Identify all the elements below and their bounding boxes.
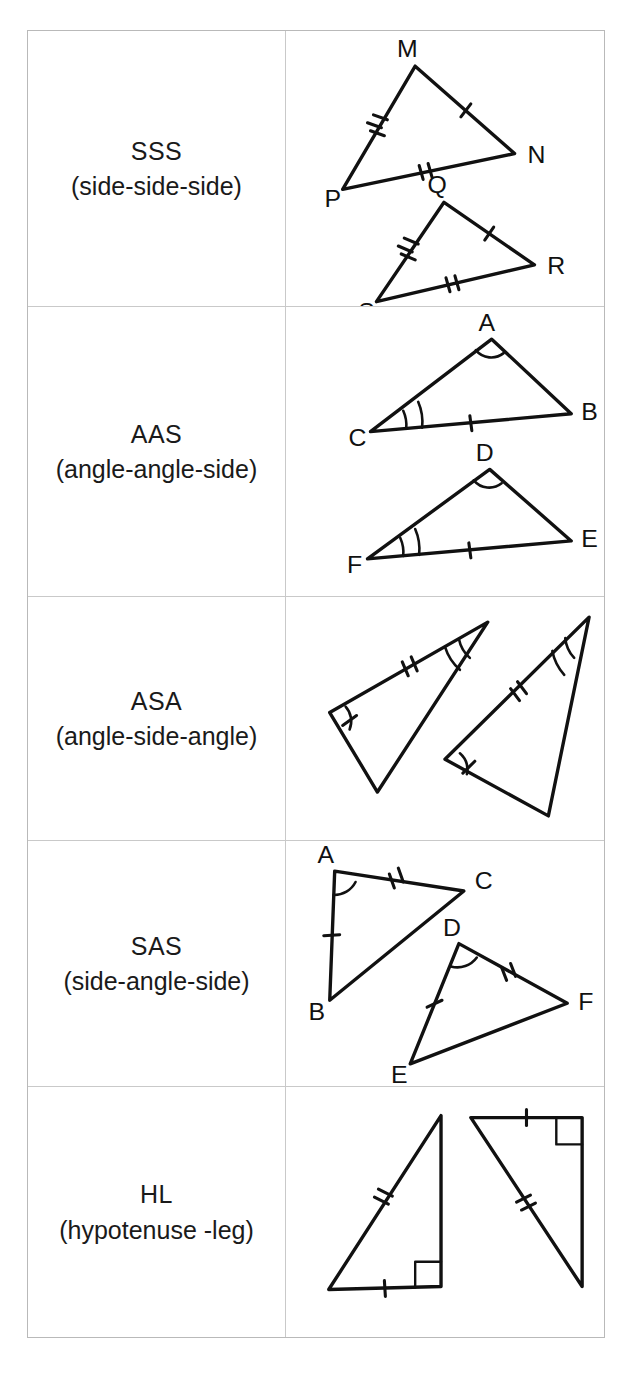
theorem-cell-sss: SSS (side-side-side) (28, 31, 286, 306)
side-mark-asa-right-2ticks (511, 682, 527, 701)
side-mark-qr-1tick (485, 227, 494, 240)
side-mark-pm-3ticks (367, 115, 387, 136)
theorem-full-sas: (side-angle-side) (63, 965, 249, 998)
table-row-hl: HL (hypotenuse -leg) (28, 1087, 604, 1337)
diagram-cell-aas: A B C D (286, 307, 604, 596)
table-row-sas: SAS (side-angle-side) (28, 841, 604, 1087)
vertex-label-n: N (527, 141, 545, 168)
diagram-cell-hl (286, 1087, 604, 1337)
theorem-abbr-hl: HL (140, 1178, 173, 1211)
vertex-label-sas-b: B (309, 998, 326, 1025)
vertex-label-sas-e: E (391, 1061, 408, 1086)
side-mark-sq-3ticks (398, 238, 418, 260)
theorem-abbr-asa: ASA (131, 685, 183, 718)
triangle-congruence-table: SSS (side-side-side) (27, 30, 605, 1338)
sss-diagram: M N P (286, 31, 604, 306)
triangle-sas-abc: A B C (309, 841, 493, 1025)
triangle-abc: A B C (349, 309, 598, 450)
side-mark-sas-ac-2ticks (389, 868, 403, 888)
theorem-abbr-sas: SAS (131, 930, 183, 963)
cropped-text-fragment (0, 0, 630, 14)
vertex-label-c: C (349, 424, 367, 451)
angle-mark-a-1arc (476, 350, 504, 357)
table-row-sss: SSS (side-side-side) (28, 31, 604, 307)
right-angle-marker-right (556, 1118, 582, 1145)
angle-mark-sas-a-1arc (334, 882, 356, 895)
hl-diagram (286, 1087, 604, 1337)
vertex-label-r: R (547, 252, 565, 279)
vertex-label-sas-a: A (317, 841, 334, 868)
aas-diagram: A B C D (286, 307, 604, 596)
side-mark-cb-1tick (470, 416, 472, 431)
triangle-hl-left (329, 1116, 441, 1297)
vertex-label-d: D (476, 439, 494, 466)
angle-mark-asa-left-corner-1arc (343, 707, 357, 730)
angle-mark-asa-right-corner-1arc (460, 753, 475, 774)
diagram-cell-sas: A B C (286, 841, 604, 1086)
vertex-label-q: Q (427, 171, 446, 198)
diagram-cell-asa (286, 597, 604, 840)
triangle-def: D E F (347, 439, 598, 577)
vertex-label-a: A (478, 309, 495, 336)
diagram-cell-sss: M N P (286, 31, 604, 306)
side-mark-hl-left-leg-1tick (384, 1281, 385, 1297)
theorem-full-asa: (angle-side-angle) (56, 720, 258, 753)
vertex-label-sas-c: C (475, 867, 493, 894)
triangle-qrs: Q R S (358, 171, 565, 306)
vertex-label-m: M (397, 35, 418, 62)
vertex-label-p: P (324, 185, 341, 212)
theorem-full-hl: (hypotenuse -leg) (59, 1214, 254, 1247)
side-mark-sas-ab-1tick (324, 935, 340, 936)
vertex-label-sas-f: F (578, 988, 593, 1015)
theorem-cell-aas: AAS (angle-angle-side) (28, 307, 286, 596)
theorem-full-aas: (angle-angle-side) (56, 453, 258, 486)
angle-mark-sas-d-1arc (451, 958, 477, 968)
vertex-label-f: F (347, 551, 362, 578)
theorem-cell-sas: SAS (side-angle-side) (28, 841, 286, 1086)
theorem-abbr-sss: SSS (131, 135, 183, 168)
side-mark-fe-1tick (469, 543, 471, 558)
vertex-label-s: S (358, 298, 375, 306)
vertex-label-b: B (581, 398, 598, 425)
theorem-cell-hl: HL (hypotenuse -leg) (28, 1087, 286, 1337)
triangle-asa-left (330, 622, 488, 792)
table-row-aas: AAS (angle-angle-side) (28, 307, 604, 597)
triangle-asa-right (445, 617, 589, 816)
triangle-sas-def: D E F (391, 914, 593, 1086)
asa-diagram (286, 597, 604, 840)
table-row-asa: ASA (angle-side-angle) (28, 597, 604, 841)
angle-mark-d-1arc (474, 480, 502, 487)
vertex-label-sas-d: D (443, 914, 461, 941)
vertex-label-e: E (581, 525, 598, 552)
triangle-hl-right (471, 1110, 582, 1287)
sas-diagram: A B C (286, 841, 604, 1086)
theorem-abbr-aas: AAS (131, 418, 183, 451)
theorem-full-sss: (side-side-side) (71, 170, 242, 203)
right-angle-marker-left (415, 1262, 441, 1288)
theorem-cell-asa: ASA (angle-side-angle) (28, 597, 286, 840)
